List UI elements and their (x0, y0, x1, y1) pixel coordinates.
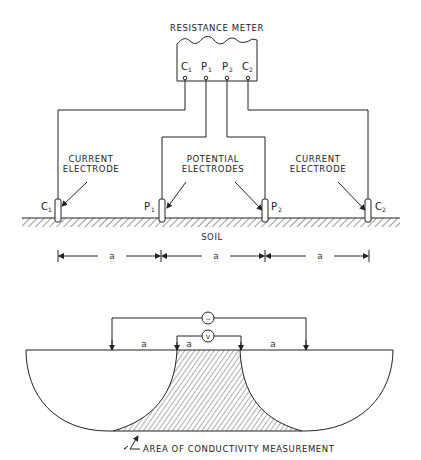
electrode-letter: P (271, 201, 277, 212)
wire-c1 (58, 80, 185, 199)
resistance-meter: RESISTANCE METER C 1 P 1 P 2 C 2 (170, 23, 264, 81)
electrode-sub: 1 (151, 206, 155, 213)
soil-hatch (22, 218, 400, 227)
caption-leader (130, 436, 140, 449)
current-electrode-label-right: CURRENT (295, 154, 340, 164)
wire-c2 (248, 80, 368, 199)
meter-box (177, 36, 257, 81)
wire-p1 (162, 80, 206, 199)
leader-arrow (338, 182, 365, 210)
meter-terminal-p2: P 2 (222, 61, 233, 80)
potential-electrodes-label: POTENTIAL (187, 154, 239, 164)
terminal-sub: 1 (188, 66, 192, 73)
wire-p2 (227, 80, 265, 199)
spacing-dimensions: a a a (58, 250, 369, 262)
leader-arrow (167, 182, 186, 208)
leader-arrow (62, 182, 87, 206)
source-glyph: ~ (205, 315, 210, 322)
terminal-sub: 1 (208, 66, 212, 73)
electrode-sub: 1 (48, 206, 52, 213)
electrode-letter: C (41, 201, 48, 212)
current-electrode-label-left: CURRENT (68, 154, 113, 164)
soil-label: SOIL (201, 232, 223, 242)
spacing-a-2: a (213, 251, 219, 261)
current-electrode-label-right-2: ELECTRODE (290, 164, 347, 174)
electrode-sub: 2 (278, 206, 282, 213)
terminal-letter: P (222, 61, 228, 72)
spacing-a-left: a (141, 339, 147, 349)
electrode-letter: P (144, 201, 150, 212)
electrode-sub: 2 (382, 206, 386, 213)
meter-terminal-c1: C 1 (181, 61, 192, 80)
terminal-sub: 2 (249, 66, 253, 73)
wires (58, 80, 368, 199)
current-electrode-label-left-2: ELECTRODE (63, 164, 120, 174)
voltmeter-symbol: V (202, 330, 214, 342)
spacing-a-right: a (270, 339, 276, 349)
meter-title: RESISTANCE METER (170, 23, 264, 33)
potential-electrodes-label-2: ELECTRODES (182, 164, 245, 174)
spacing-a-middle: a (186, 339, 192, 349)
terminal-letter: P (201, 61, 207, 72)
ac-source-symbol: ~ (202, 312, 214, 324)
terminal-letter: C (242, 61, 249, 72)
caption: AREA OF CONDUCTIVITY MEASUREMENT (143, 444, 335, 454)
spacing-a-3: a (317, 251, 323, 261)
terminal-sub: 2 (229, 66, 233, 73)
meter-terminal-c2: C 2 (242, 61, 253, 80)
bottom-diagram: ~ V a a a AREA OF CONDUCTIVITY MEASUREME… (26, 312, 393, 454)
terminal-letter: C (181, 61, 188, 72)
spacing-a-1: a (109, 251, 115, 261)
leader-arrow (235, 182, 262, 210)
electrode-letter: C (375, 201, 382, 212)
top-diagram: RESISTANCE METER C 1 P 1 P 2 C 2 (22, 23, 400, 262)
wenner-array-diagram: RESISTANCE METER C 1 P 1 P 2 C 2 (0, 0, 421, 460)
meter-terminal-p1: P 1 (201, 61, 212, 80)
